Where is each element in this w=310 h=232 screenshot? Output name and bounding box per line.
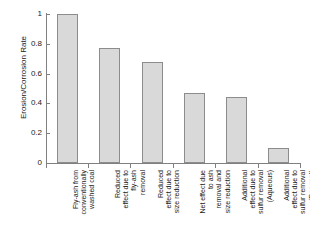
y-tick-mark-1 [46, 133, 50, 134]
bar-1 [99, 48, 120, 163]
y-axis-line [46, 13, 47, 164]
y-tick-label-3: 0.6 [24, 70, 42, 78]
x-category-label-5: Additionaleffect due tosulfur removal(Re… [283, 170, 310, 232]
x-tick-mark-2 [130, 164, 131, 168]
x-tick-mark-5 [258, 164, 259, 168]
x-tick-mark-4 [215, 164, 216, 168]
x-tick-mark-3 [173, 164, 174, 168]
bar-3 [184, 93, 205, 163]
x-category-label-3: Net effect dueto ashremoval andsize redu… [199, 170, 232, 232]
y-tick-mark-2 [46, 103, 50, 104]
x-tick-mark-0 [46, 164, 47, 168]
y-tick-label-2: 0.4 [24, 99, 42, 107]
x-category-label-1: Reducedeffect due tofly-ashremoval [114, 170, 147, 232]
x-category-label-2: Reducedeffect due tosize reduction [157, 170, 182, 232]
bar-2 [142, 62, 163, 163]
x-tick-mark-6 [300, 164, 301, 168]
y-tick-label-4: 0.8 [24, 40, 42, 48]
bar-0 [57, 14, 78, 163]
y-tick-mark-4 [46, 44, 50, 45]
x-tick-mark-1 [88, 164, 89, 168]
erosion-corrosion-bar-chart: Erosion/Corrosion Rate 0 0.2 0.4 0.6 0.8… [0, 0, 310, 232]
x-category-label-0: Fly-ash fromconventionallywashed coal [72, 170, 97, 232]
y-tick-label-5: 1 [30, 10, 42, 18]
y-tick-label-0: 0 [30, 159, 42, 167]
y-tick-mark-5 [46, 14, 50, 15]
x-category-label-4: Additionaleffect due tosulfur removal(Aq… [241, 170, 274, 232]
bar-4 [226, 97, 247, 163]
y-tick-label-1: 0.2 [24, 129, 42, 137]
y-tick-mark-3 [46, 74, 50, 75]
bar-5 [268, 148, 289, 163]
